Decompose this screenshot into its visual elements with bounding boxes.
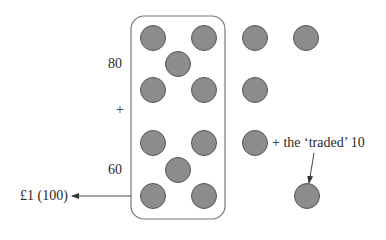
grouped-counters <box>141 26 217 209</box>
label-pound: £1 (100) <box>20 189 68 203</box>
counter <box>192 26 217 51</box>
counter <box>166 52 191 77</box>
traded-counter <box>295 184 320 209</box>
counter <box>294 26 319 51</box>
counter <box>192 184 217 209</box>
counter <box>243 78 268 103</box>
counter <box>192 131 217 156</box>
arrow-to-traded <box>309 153 314 183</box>
counter <box>141 131 166 156</box>
label-plus: + <box>116 103 124 117</box>
counter <box>141 26 166 51</box>
counter <box>166 158 191 183</box>
counter <box>141 78 166 103</box>
counter <box>192 78 217 103</box>
counter <box>243 131 268 156</box>
counter <box>141 184 166 209</box>
counter <box>243 26 268 51</box>
label-80: 80 <box>108 57 122 71</box>
traded-counter-circle <box>295 184 320 209</box>
label-traded: + the ‘traded’ 10 <box>272 136 365 150</box>
label-60: 60 <box>108 163 122 177</box>
